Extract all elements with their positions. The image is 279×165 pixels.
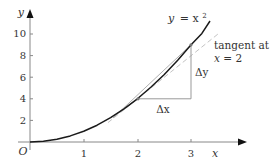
x-tick-label-2: 2 [135, 148, 141, 159]
y-tick-label-4: 4 [20, 93, 26, 104]
y-axis-arrow-icon [27, 9, 34, 18]
tangent-label-line1: tangent at [214, 39, 270, 51]
y-tick-label-8: 8 [20, 50, 26, 61]
delta-x-label: Δx [156, 103, 170, 115]
y-tick-label-6: 6 [20, 72, 26, 83]
x-tick-label-1: 1 [81, 148, 87, 159]
y-tick-label-10: 10 [13, 28, 26, 39]
point-2-4 [136, 97, 139, 100]
y-axis-label: y [17, 6, 25, 19]
tangent-diagram: 1 2 3 2 4 6 8 10 y x O y = x 2 tangent a… [0, 0, 279, 165]
secant-line [113, 45, 191, 118]
parabola-curve [30, 21, 210, 142]
point-3-9 [189, 43, 192, 46]
delta-y-label: Δy [195, 66, 209, 78]
x-axis-arrow-icon [238, 139, 247, 146]
curve-label: y = x 2 [167, 12, 207, 25]
tangent-label-line2: x = 2 [214, 52, 242, 64]
x-axis-label: x [212, 147, 219, 160]
y-tick-label-2: 2 [20, 115, 26, 126]
axes [18, 9, 247, 150]
origin-label: O [18, 145, 27, 158]
x-tick-label-3: 3 [188, 148, 194, 159]
